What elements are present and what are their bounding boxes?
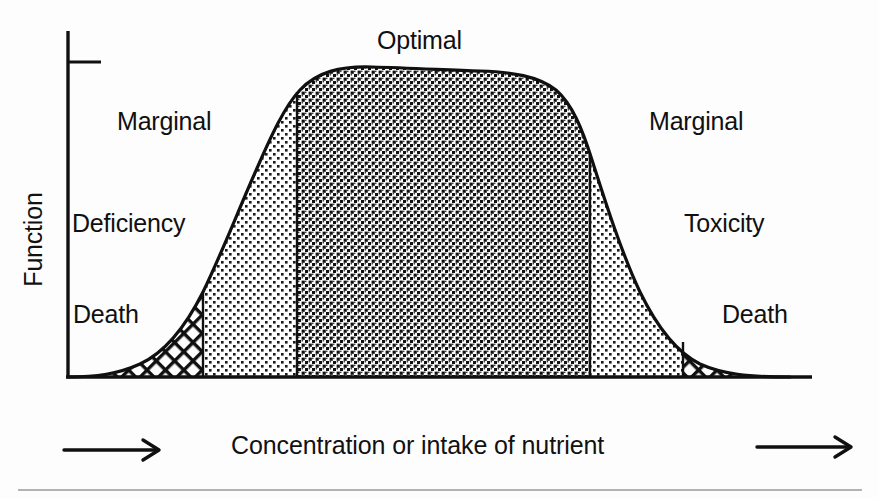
zone-label-death-right: Death (722, 300, 788, 329)
y-axis-label: Function (19, 180, 48, 300)
x-axis-arrow-right (757, 437, 851, 457)
zone-label-death-left: Death (73, 300, 139, 329)
zone-label-optimal: Optimal (377, 26, 462, 55)
zone-label-marginal-right: Marginal (649, 107, 743, 136)
zone-label-toxicity: Toxicity (684, 209, 764, 238)
zone-deficiency-marginal-left (203, 55, 297, 385)
figure-container: Optimal Marginal Marginal Deficiency Tox… (0, 0, 879, 499)
zone-label-marginal-left: Marginal (117, 107, 211, 136)
zone-label-deficiency: Deficiency (72, 209, 185, 238)
zone-optimal (297, 55, 590, 385)
x-axis-arrow-left (64, 440, 159, 460)
zone-toxicity-marginal-right (590, 55, 683, 385)
x-axis-label: Concentration or intake of nutrient (231, 431, 604, 460)
dose-response-chart (0, 0, 879, 499)
